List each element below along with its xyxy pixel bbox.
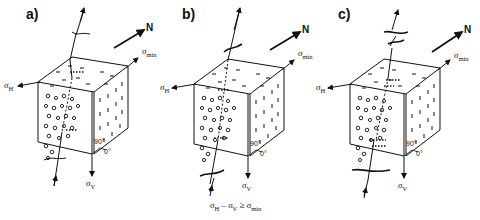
sigma-v-label-b: σV <box>242 180 251 192</box>
north-label-b: N <box>302 24 309 35</box>
panel-label-a: a) <box>26 6 38 22</box>
north-label-c: N <box>464 24 471 35</box>
panel-a <box>18 8 144 186</box>
angle-90-label-a: 90° <box>94 138 105 145</box>
stress-relation-caption: σH – σV ≥ σmin <box>210 200 261 212</box>
sigma-min-label-c: σmin <box>454 50 469 62</box>
panel-label-b: b) <box>182 6 195 22</box>
sigma-v-label-a: σV <box>86 178 95 190</box>
sigma-min-label-b: σmin <box>298 48 313 60</box>
angle-90-label-b: 90° <box>250 140 261 147</box>
block-outline <box>38 57 128 92</box>
angle-0-label-a: 0° <box>104 148 111 155</box>
sigma-h-label-a: σH <box>4 80 13 92</box>
stress-block-diagram <box>0 0 480 220</box>
panel-label-c: c) <box>338 6 350 22</box>
sigma-h-label-c: σH <box>316 82 325 94</box>
sigma-min-label-a: σmin <box>142 46 157 58</box>
angle-0-label-b: 0° <box>260 150 267 157</box>
angle-0-label-c: 0° <box>416 150 423 157</box>
sigma-h-label-b: σH <box>160 82 169 94</box>
panel-b <box>172 8 300 196</box>
angle-90-label-c: 90° <box>406 140 417 147</box>
panel-c <box>328 10 462 198</box>
sigma-v-label-c: σV <box>398 180 407 192</box>
north-label-a: N <box>146 22 153 33</box>
